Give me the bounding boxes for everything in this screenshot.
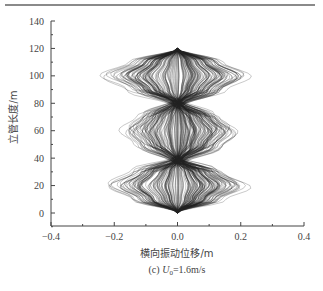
y-tick-label: 40: [34, 153, 44, 164]
y-tick-label: 120: [29, 43, 44, 54]
y-tick-label: 20: [34, 180, 44, 191]
y-axis-title: 立管长度/m: [7, 90, 19, 143]
x-tick-label: 0.2: [235, 231, 248, 242]
y-tick-label: 0: [39, 208, 44, 219]
y-tick-label: 60: [34, 125, 44, 136]
chart: 020406080100120140−0.4−0.20.00.20.4 横向振动…: [0, 0, 323, 291]
y-tick-label: 100: [29, 70, 44, 81]
x-tick-label: −0.4: [42, 231, 60, 242]
x-axis-title: 横向振动位移/m: [140, 247, 213, 259]
x-tick-label: −0.2: [105, 231, 123, 242]
x-tick-label: 0.0: [171, 231, 184, 242]
y-tick-label: 140: [29, 16, 44, 27]
x-tick-label: 0.4: [298, 231, 311, 242]
figure-caption: (c) U0=1.6m/s: [149, 264, 206, 277]
y-tick-label: 80: [34, 98, 44, 109]
vibration-traces: [100, 48, 252, 213]
